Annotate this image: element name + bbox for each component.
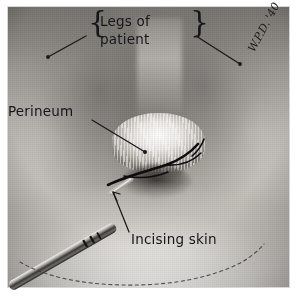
legs-leader-right — [196, 36, 240, 64]
incising-skin-label: Incising skin — [131, 231, 217, 247]
figure-page: { } Legs of patient Perineum Incising sk… — [0, 0, 296, 303]
perineum-leader — [92, 120, 145, 152]
legs-leader-right-dot — [238, 62, 242, 66]
legs-label-line1: Legs of — [100, 13, 151, 29]
scalpel — [7, 179, 131, 291]
brace-right: } — [190, 4, 209, 39]
legs-leader-left — [48, 36, 86, 57]
legs-leader-left-dot — [46, 55, 50, 59]
incising-skin-annotation: Incising skin — [113, 192, 217, 247]
legs-label-line2: patient — [100, 31, 149, 47]
artist-signature: W.P.D. '40 — [245, 0, 282, 54]
svg-text:W.P.D. '40: W.P.D. '40 — [245, 0, 282, 54]
perineum-leader-dot — [143, 150, 147, 154]
incision-line — [108, 139, 204, 185]
perineum-label: Perineum — [8, 103, 73, 119]
annotation-overlay: { } Legs of patient Perineum Incising sk… — [0, 0, 296, 303]
perineum-annotation: Perineum — [8, 103, 147, 154]
incising-arrow-head — [113, 192, 120, 201]
scalpel-handle — [7, 222, 118, 292]
legs-of-patient-annotation: { } Legs of patient — [46, 4, 242, 66]
